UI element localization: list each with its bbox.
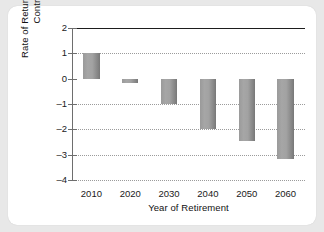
bar-2020 [122, 79, 138, 83]
chart-figure-panel: Rate of Return on Social Security Contri… [8, 6, 316, 225]
bar-2040 [200, 79, 216, 130]
gridline [72, 129, 305, 130]
zero-baseline [72, 28, 305, 29]
y-axis-title: Rate of Return on Social Security Contri… [14, 0, 48, 62]
x-axis-title: Year of Retirement [72, 202, 305, 213]
y-axis-tick-label: 0 [62, 74, 67, 84]
y-axis-tick-label: 2 [62, 23, 67, 33]
gridline [72, 104, 305, 105]
x-axis-tick-label-2060: 2060 [275, 189, 296, 199]
y-axis-tick-label: –4 [56, 175, 67, 185]
plot-area: 210–1–2–3–4201020202030204020502060 [72, 28, 305, 180]
bar-2010 [83, 53, 99, 78]
y-axis-tick-label: 1 [62, 49, 67, 59]
y-axis-tick-label: –1 [56, 99, 67, 109]
y-axis-tick-mark [68, 155, 77, 156]
gridline [72, 180, 305, 181]
y-axis-tick-mark [68, 53, 77, 54]
x-axis-tick-label-2030: 2030 [159, 189, 180, 199]
y-axis-tick-mark [68, 104, 77, 105]
gridline [72, 155, 305, 156]
y-axis-tick-mark [68, 28, 77, 29]
x-axis-tick-label-2050: 2050 [236, 189, 257, 199]
y-axis-tick-mark [68, 79, 77, 80]
y-axis-tick-label: –2 [56, 125, 67, 135]
x-axis-tick-label-2010: 2010 [81, 189, 102, 199]
y-axis-tick-label: –3 [56, 150, 67, 160]
gridline [72, 53, 305, 54]
x-axis-tick-label-2040: 2040 [197, 189, 218, 199]
bar-2060 [277, 79, 293, 160]
x-axis-tick-label-2020: 2020 [120, 189, 141, 199]
y-axis-tick-mark [68, 180, 77, 181]
bar-2050 [239, 79, 255, 142]
bar-2030 [161, 79, 177, 104]
y-axis-tick-mark [68, 129, 77, 130]
